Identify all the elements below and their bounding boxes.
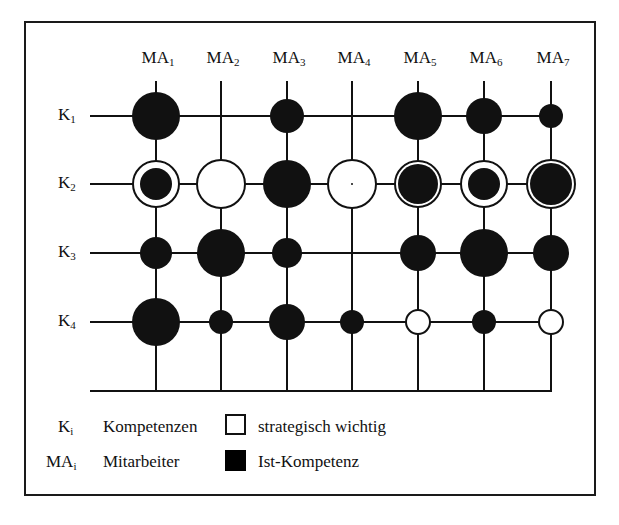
column-label-base: MA [207, 48, 234, 67]
column-label-ma4: MA4 [338, 49, 371, 68]
row-label-base: K [58, 105, 70, 124]
ist-competence-disc-icon [140, 237, 172, 269]
ist-competence-disc-icon [400, 235, 436, 271]
strategic-circle-icon [197, 160, 245, 208]
column-label-sub: 1 [169, 56, 175, 68]
ist-competence-disc-icon [530, 163, 572, 205]
row-label-sub: 4 [70, 319, 76, 331]
column-label-base: MA [273, 48, 300, 67]
legend-ma-text: Mitarbeiter [103, 453, 179, 470]
row-label-sub: 3 [70, 250, 76, 262]
ist-competence-disc-icon [263, 160, 311, 208]
competence-matrix [0, 0, 619, 525]
legend-k-symbol: Ki [58, 418, 73, 437]
strategic-square-icon [225, 414, 246, 435]
row-label-base: K [58, 173, 70, 192]
column-label-ma1: MA1 [142, 49, 175, 68]
ist-competence-disc-icon [472, 310, 496, 334]
legend-ma-sub: i [73, 460, 76, 472]
ist-competence-disc-icon [209, 310, 233, 334]
legend-strat-label: strategisch wichtig [258, 418, 386, 435]
strategic-circle-icon [539, 310, 563, 334]
column-label-ma6: MA6 [470, 49, 503, 68]
column-label-ma7: MA7 [537, 49, 570, 68]
row-label-sub: 2 [70, 181, 76, 193]
column-label-sub: 7 [564, 56, 570, 68]
row-label-k4: K4 [58, 312, 76, 331]
column-label-base: MA [404, 48, 431, 67]
legend-ma-symbol: MAi [46, 453, 76, 472]
column-label-sub: 3 [300, 56, 306, 68]
ist-competence-disc-icon [132, 298, 180, 346]
ist-competence-disc-icon [270, 99, 304, 133]
column-label-ma5: MA5 [404, 49, 437, 68]
ist-competence-disc-icon [269, 304, 305, 340]
column-label-sub: 4 [365, 56, 371, 68]
column-label-base: MA [537, 48, 564, 67]
legend-ist-label: Ist-Kompetenz [258, 453, 359, 470]
ist-competence-disc-icon [140, 168, 172, 200]
row-label-base: K [58, 311, 70, 330]
row-label-base: K [58, 242, 70, 261]
column-label-sub: 6 [497, 56, 503, 68]
row-label-k1: K1 [58, 106, 76, 125]
legend-ma-base: MA [46, 452, 73, 471]
ist-competence-disc-icon [351, 183, 353, 185]
row-label-sub: 1 [70, 113, 76, 125]
ist-competence-disc-icon [460, 229, 508, 277]
column-label-base: MA [338, 48, 365, 67]
column-label-sub: 2 [234, 56, 240, 68]
column-label-ma3: MA3 [273, 49, 306, 68]
legend-k-sub: i [70, 425, 73, 437]
ist-competence-disc-icon [394, 92, 442, 140]
ist-competence-disc-icon [533, 235, 569, 271]
column-label-base: MA [142, 48, 169, 67]
ist-competence-disc-icon [340, 310, 364, 334]
ist-competence-disc-icon [132, 92, 180, 140]
legend-k-base: K [58, 417, 70, 436]
ist-competence-disc-icon [466, 98, 502, 134]
ist-competence-disc-icon [272, 238, 302, 268]
ist-competence-disc-icon [539, 104, 563, 128]
strategic-circle-icon [406, 310, 430, 334]
column-label-sub: 5 [431, 56, 437, 68]
column-label-base: MA [470, 48, 497, 67]
ist-competence-disc-icon [398, 164, 438, 204]
ist-square-icon [225, 450, 246, 471]
row-label-k2: K2 [58, 174, 76, 193]
column-label-ma2: MA2 [207, 49, 240, 68]
legend-k-text: Kompetenzen [103, 418, 197, 435]
ist-competence-disc-icon [468, 168, 500, 200]
row-label-k3: K3 [58, 243, 76, 262]
ist-competence-disc-icon [197, 229, 245, 277]
